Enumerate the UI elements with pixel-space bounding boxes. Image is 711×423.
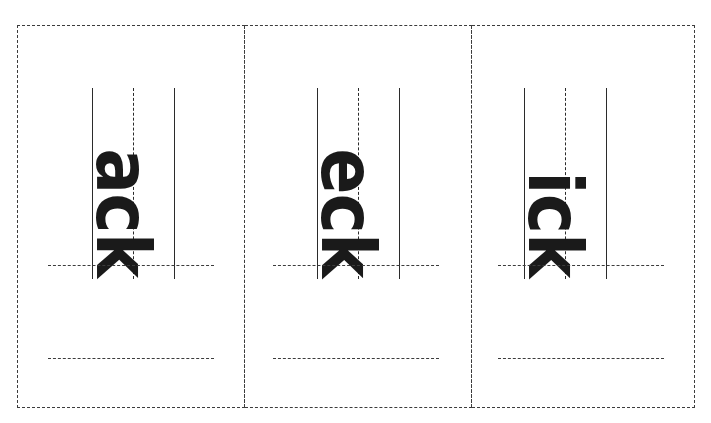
card-divider [244, 26, 245, 407]
rime-word: ick [524, 88, 608, 279]
practice-writing-line[interactable] [498, 265, 664, 266]
card-divider [471, 26, 472, 407]
practice-writing-line[interactable] [273, 358, 439, 359]
rime-word-text: ack [92, 148, 153, 277]
worksheet-page: ack eck [0, 0, 711, 423]
practice-writing-line[interactable] [48, 265, 214, 266]
worksheet-card[interactable]: ack [17, 25, 245, 408]
rime-word-text: ick [524, 171, 585, 277]
rime-word: eck [317, 88, 401, 279]
handwriting-guideline-group: ack [92, 88, 176, 279]
handwriting-guideline-group: ick [524, 88, 608, 279]
worksheet-card[interactable]: ick [472, 25, 695, 408]
practice-writing-line[interactable] [498, 358, 664, 359]
handwriting-guideline-group: eck [317, 88, 401, 279]
practice-writing-line[interactable] [48, 358, 214, 359]
worksheet-grid: ack eck [17, 25, 695, 408]
worksheet-card[interactable]: eck [245, 25, 472, 408]
rime-word-text: eck [317, 148, 378, 277]
rime-word: ack [92, 88, 176, 279]
practice-writing-line[interactable] [273, 265, 439, 266]
